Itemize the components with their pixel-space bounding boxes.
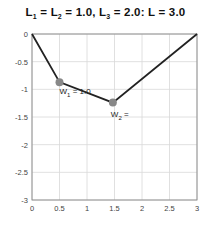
plot-area: 00.511.522.530-0.5-1-1.5-2-2.5-3W1 = 1.0… (0, 0, 211, 225)
x-tick-label: 0 (30, 204, 34, 213)
x-tick-label: 0.5 (54, 204, 64, 213)
x-tick-label: 1.5 (109, 204, 119, 213)
x-tick-label: 2 (140, 204, 144, 213)
y-tick-label: -2 (21, 141, 28, 150)
x-tick-label: 3 (195, 204, 199, 213)
y-tick-label: -2.5 (15, 168, 28, 177)
x-tick-label: 2.5 (164, 204, 174, 213)
y-tick-label: -1.5 (15, 113, 28, 122)
x-tick-label: 1 (85, 204, 89, 213)
y-tick-label: 0 (24, 30, 28, 39)
y-tick-label: -0.5 (15, 58, 28, 67)
weight-marker-w2 (109, 99, 117, 107)
weight-marker-w1 (56, 78, 64, 86)
y-tick-label: -1 (21, 85, 28, 94)
w1-label: W1 = 1.0 (60, 87, 92, 98)
y-tick-label: -3 (21, 196, 28, 205)
w2-label: W2 = (111, 110, 129, 121)
